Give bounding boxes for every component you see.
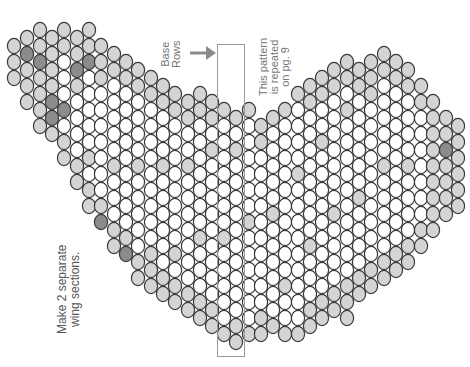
bead	[131, 158, 144, 173]
bead	[20, 62, 33, 77]
bead	[352, 286, 365, 301]
bead	[107, 174, 120, 189]
base-rows-label: Base Rows	[160, 40, 182, 68]
bead	[266, 270, 279, 285]
bead	[57, 134, 70, 149]
bead	[340, 102, 353, 117]
bead	[181, 302, 194, 317]
bead	[181, 142, 194, 157]
bead	[278, 102, 291, 117]
bead	[340, 214, 353, 229]
bead	[82, 166, 95, 181]
bead	[364, 102, 377, 117]
bead	[131, 78, 144, 93]
bead	[364, 166, 377, 181]
bead	[291, 230, 304, 245]
bead	[389, 134, 402, 149]
bead	[193, 310, 206, 325]
bead	[131, 110, 144, 125]
bead	[107, 222, 120, 237]
bead	[193, 230, 206, 245]
base-rows-box	[217, 44, 245, 357]
bead	[352, 174, 365, 189]
bead	[119, 166, 132, 181]
bead	[315, 102, 328, 117]
bead	[181, 254, 194, 269]
bead	[193, 118, 206, 133]
bead	[94, 134, 107, 149]
bead	[340, 118, 353, 133]
bead	[340, 246, 353, 261]
bead	[193, 262, 206, 277]
bead	[20, 30, 33, 45]
bead	[266, 318, 279, 333]
bead	[364, 150, 377, 165]
bead	[193, 214, 206, 229]
bead	[254, 198, 267, 213]
bead	[57, 54, 70, 69]
bead	[70, 62, 83, 77]
bead	[401, 110, 414, 125]
bead	[278, 278, 291, 293]
bead	[266, 174, 279, 189]
instruction-line-2: wing sections.	[69, 245, 82, 334]
bead	[327, 174, 340, 189]
bead	[389, 182, 402, 197]
bead	[364, 230, 377, 245]
bead	[426, 94, 439, 109]
bead	[414, 94, 427, 109]
bead	[401, 126, 414, 141]
bead	[82, 134, 95, 149]
bead	[303, 206, 316, 221]
bead	[168, 230, 181, 245]
bead	[107, 62, 120, 77]
bead	[119, 134, 132, 149]
bead	[315, 262, 328, 277]
bead	[315, 182, 328, 197]
bead	[278, 182, 291, 197]
bead	[401, 142, 414, 157]
bead	[57, 102, 70, 117]
bead	[401, 78, 414, 93]
bead	[144, 166, 157, 181]
bead	[414, 222, 427, 237]
bead	[82, 198, 95, 213]
base-rows-line-2: Rows	[171, 40, 182, 68]
bead	[278, 230, 291, 245]
bead	[193, 198, 206, 213]
bead	[181, 270, 194, 285]
bead	[70, 94, 83, 109]
bead	[94, 182, 107, 197]
bead	[377, 222, 390, 237]
bead	[327, 142, 340, 157]
bead	[94, 150, 107, 165]
bead	[131, 142, 144, 157]
bead	[144, 246, 157, 261]
bead	[131, 206, 144, 221]
bead	[377, 238, 390, 253]
bead	[181, 126, 194, 141]
bead	[45, 62, 58, 77]
bead	[327, 158, 340, 173]
bead	[181, 174, 194, 189]
bead	[426, 126, 439, 141]
bead	[82, 182, 95, 197]
bead	[364, 214, 377, 229]
bead	[389, 70, 402, 85]
bead	[414, 142, 427, 157]
bead	[278, 150, 291, 165]
bead	[181, 110, 194, 125]
bead	[364, 198, 377, 213]
bead	[131, 190, 144, 205]
bead	[266, 302, 279, 317]
bead	[144, 230, 157, 245]
bead	[57, 150, 70, 165]
bead	[401, 222, 414, 237]
bead	[340, 86, 353, 101]
bead	[426, 206, 439, 221]
bead	[327, 190, 340, 205]
bead	[119, 150, 132, 165]
bead	[144, 102, 157, 117]
repeated-note-label: This pattern is repeated on pg. 9	[258, 38, 291, 96]
bead	[20, 94, 33, 109]
